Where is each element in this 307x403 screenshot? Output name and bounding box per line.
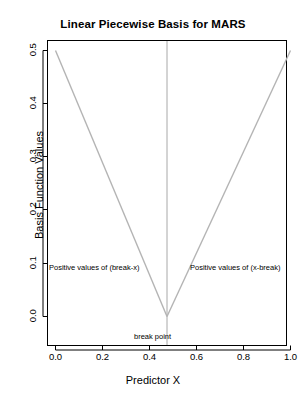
- y-tick-label-5: 0.5: [28, 35, 38, 65]
- chart-title: Linear Piecewise Basis for MARS: [0, 19, 306, 31]
- x-tick-label-4: 0.8: [224, 352, 264, 362]
- x-tick-label-3: 0.6: [177, 352, 217, 362]
- right-annotation: Positive values of (x-break): [190, 264, 280, 272]
- x-tick-label-2: 0.4: [130, 352, 170, 362]
- y-tick-label-2: 0.2: [28, 194, 38, 224]
- y-tick-label-0: 0.0: [28, 301, 38, 331]
- chart-container: Linear Piecewise Basis for MARS Predicto…: [0, 0, 306, 403]
- x-tick-label-5: 1.0: [271, 352, 307, 362]
- x-axis-ticks: [56, 346, 291, 351]
- y-tick-label-4: 0.4: [28, 88, 38, 118]
- y-tick-label-3: 0.3: [28, 141, 38, 171]
- left-annotation: Positive values of (break-x): [49, 264, 139, 272]
- basis-line-left: [56, 51, 168, 317]
- x-tick-label-0: 0.0: [36, 352, 76, 362]
- break-point-annotation: break point: [134, 333, 171, 341]
- basis-line-right: [167, 51, 291, 317]
- y-tick-label-1: 0.1: [28, 248, 38, 278]
- x-axis-title: Predictor X: [0, 375, 306, 386]
- chart-canvas: [0, 0, 306, 403]
- x-tick-label-1: 0.2: [83, 352, 123, 362]
